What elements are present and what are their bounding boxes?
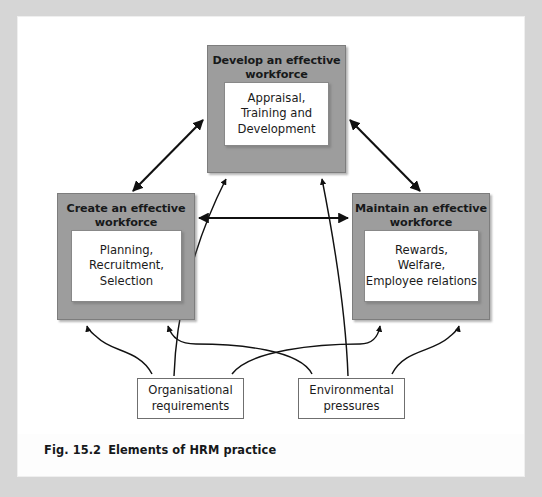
node-maintain-title: Maintain an effective workforce: [353, 202, 489, 230]
figure-caption-number: Fig. 15.2: [44, 443, 101, 457]
node-create-detail-text: Planning, Recruitment, Selection: [89, 243, 164, 290]
node-environmental-label: Environmental pressures: [309, 383, 393, 414]
node-organisational-label: Organisational requirements: [148, 383, 232, 414]
node-create-title: Create an effective workforce: [58, 202, 194, 230]
figure-caption-title: Elements of HRM practice: [108, 443, 276, 457]
node-maintain-detail-box[interactable]: Rewards, Welfare, Employee relations: [364, 230, 479, 302]
node-develop-detail-text: Appraisal, Training and Development: [237, 91, 315, 138]
node-develop-title: Develop an effective workforce: [208, 54, 345, 82]
node-organisational-requirements[interactable]: Organisational requirements: [137, 378, 244, 419]
node-environmental-pressures[interactable]: Environmental pressures: [298, 378, 405, 419]
figure-page: Develop an effective workforce Appraisal…: [0, 0, 542, 497]
node-create-detail-box[interactable]: Planning, Recruitment, Selection: [71, 230, 182, 302]
node-maintain-detail-text: Rewards, Welfare, Employee relations: [366, 243, 477, 290]
figure-caption: Fig. 15.2Elements of HRM practice: [44, 443, 276, 457]
node-develop-detail-box[interactable]: Appraisal, Training and Development: [224, 82, 329, 146]
caption-divider: [18, 433, 524, 434]
